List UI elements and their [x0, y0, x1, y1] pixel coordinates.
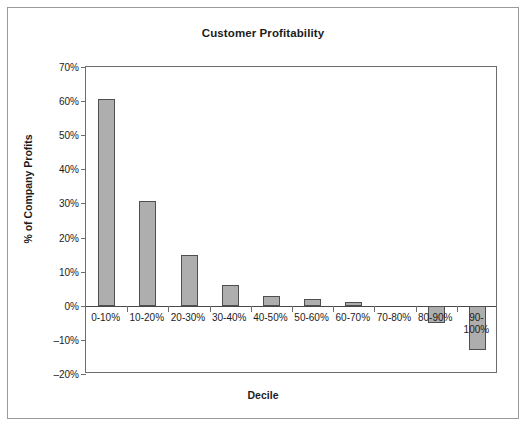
- y-tick-mark: [81, 135, 86, 136]
- y-tick-label: 10%: [59, 266, 79, 277]
- y-tick-mark: [81, 101, 86, 102]
- y-tick-label: 60%: [59, 96, 79, 107]
- bar: [304, 299, 321, 306]
- chart-title: Customer Profitability: [8, 27, 518, 39]
- y-tick-mark: [81, 374, 86, 375]
- y-tick-label: 0%: [65, 300, 79, 311]
- y-tick-mark: [81, 238, 86, 239]
- plot-area: 70%60%50%40%30%20%10%0%–10%–20%: [85, 66, 497, 373]
- bar: [98, 99, 115, 305]
- y-tick-label: 40%: [59, 164, 79, 175]
- y-tick-mark: [81, 169, 86, 170]
- x-tick-label: 80-90%: [407, 312, 463, 324]
- y-tick-mark: [81, 67, 86, 68]
- bar: [345, 302, 362, 305]
- y-tick-label: 50%: [59, 130, 79, 141]
- chart-card: Customer Profitability % of Company Prof…: [7, 7, 519, 419]
- y-tick-label: 70%: [59, 62, 79, 73]
- y-tick-label: –20%: [53, 369, 79, 380]
- y-tick-mark: [81, 203, 86, 204]
- y-tick-label: –10%: [53, 334, 79, 345]
- x-tick-label: 90-100%: [461, 312, 491, 336]
- bar: [139, 201, 156, 306]
- y-tick-label: 30%: [59, 198, 79, 209]
- bar: [222, 285, 239, 305]
- bar: [181, 255, 198, 306]
- y-tick-mark: [81, 272, 86, 273]
- y-tick-label: 20%: [59, 232, 79, 243]
- x-axis-title: Decile: [8, 389, 518, 401]
- bar: [263, 296, 280, 306]
- y-tick-mark: [81, 340, 86, 341]
- y-axis-title: % of Company Profits: [22, 99, 34, 279]
